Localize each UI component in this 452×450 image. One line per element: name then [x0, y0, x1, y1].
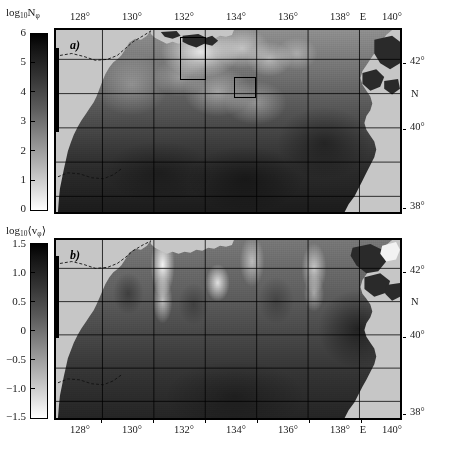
- graticule-a: [56, 30, 400, 212]
- latitude-tickmark-a-38: [403, 208, 406, 209]
- colorbar-b-tickmark-1p0: [31, 272, 35, 273]
- longitude-label-bottom-128: 128°: [50, 424, 110, 435]
- colorbar-a-tick-0: 0: [0, 202, 26, 214]
- longitude-label-top-130: 130°: [102, 11, 162, 22]
- colorbar-b: [30, 243, 48, 419]
- longitude-label-top-132: 132°: [154, 11, 214, 22]
- longitude-tickmark-136: [309, 420, 310, 423]
- annotation-box-a-2: [234, 77, 256, 98]
- map-panel-a: a): [54, 28, 402, 214]
- colorbar-b-tickmark-n0p5: [31, 359, 35, 360]
- latitude-label-b-38: 38°: [410, 406, 425, 417]
- figure-root: log10Nφ 6 5 4 3 2 1 0 128° 130° 132° 134…: [0, 0, 452, 450]
- colorbar-a-tick-3: 3: [0, 114, 26, 126]
- longitude-tickmark-138: [361, 420, 362, 423]
- latitude-label-a-40: 40°: [410, 121, 425, 132]
- panel-label-b: b): [70, 248, 80, 263]
- map-panel-b-inner: [56, 240, 400, 418]
- colorbar-a-tick-1: 1: [0, 173, 26, 185]
- colorbar-a-tickmark-3: [31, 121, 35, 122]
- colorbar-a-tickmark-2: [31, 150, 35, 151]
- latitude-label-b-40: 40°: [410, 329, 425, 340]
- colorbar-b-tick-n1p5: −1.5: [0, 410, 26, 422]
- longitude-label-bottom-134: 134°: [206, 424, 266, 435]
- edge-marker-bar-b: [56, 256, 59, 338]
- colorbar-title-b: log10⟨vφ⟩: [6, 224, 46, 238]
- latitude-tickmark-a-42: [403, 63, 406, 64]
- edge-marker-bar-a: [56, 48, 59, 132]
- latitude-label-a-hemisphere: N: [411, 88, 419, 99]
- latitude-label-a-42: 42°: [410, 55, 425, 66]
- longitude-tickmark-134: [257, 420, 258, 423]
- map-panel-b: b): [54, 238, 402, 420]
- colorbar-b-tick-n0p5: −0.5: [0, 353, 26, 365]
- longitude-label-bottom-130: 130°: [102, 424, 162, 435]
- colorbar-a-gradient: [31, 34, 47, 210]
- longitude-label-bottom-132: 132°: [154, 424, 214, 435]
- latitude-tickmark-b-40: [403, 337, 406, 338]
- longitude-label-bottom-140: 140°: [362, 424, 422, 435]
- latitude-tickmark-b-42: [403, 272, 406, 273]
- colorbar-b-tick-n1p0: −1.0: [0, 382, 26, 394]
- colorbar-a-tick-2: 2: [0, 144, 26, 156]
- longitude-label-top-128: 128°: [50, 11, 110, 22]
- colorbar-a-tick-4: 4: [0, 85, 26, 97]
- colorbar-b-tick-0p5: 0.5: [0, 295, 26, 307]
- latitude-label-b-hemisphere: N: [411, 296, 419, 307]
- colorbar-b-tick-1p0: 1.0: [0, 266, 26, 278]
- latitude-tickmark-b-38: [403, 414, 406, 415]
- colorbar-a-tickmark-5: [31, 62, 35, 63]
- colorbar-b-tick-0: 0: [0, 324, 26, 336]
- colorbar-b-gradient: [31, 244, 47, 418]
- colorbar-title-b-text: log10⟨vφ⟩: [6, 224, 46, 236]
- colorbar-b-tickmark-0p5: [31, 301, 35, 302]
- colorbar-b-tickmark-n1p0: [31, 388, 35, 389]
- annotation-box-a-1: [180, 37, 206, 80]
- longitude-label-top-140: 140°: [362, 11, 422, 22]
- colorbar-a: [30, 33, 48, 211]
- longitude-label-bottom-136: 136°: [258, 424, 318, 435]
- longitude-tickmark-128: [101, 420, 102, 423]
- latitude-tickmark-a-40: [403, 129, 406, 130]
- latitude-label-b-42: 42°: [410, 264, 425, 275]
- colorbar-title-a: log10Nφ: [6, 6, 40, 20]
- longitude-label-top-134: 134°: [206, 11, 266, 22]
- map-panel-a-inner: [56, 30, 400, 212]
- colorbar-a-tickmark-4: [31, 91, 35, 92]
- panel-label-a: a): [70, 38, 80, 53]
- colorbar-a-tickmark-1: [31, 180, 35, 181]
- colorbar-b-tick-1p5: 1.5: [0, 237, 26, 249]
- colorbar-title-a-text: log10Nφ: [6, 6, 40, 18]
- graticule-b: [56, 240, 400, 418]
- longitude-tickmark-132: [205, 420, 206, 423]
- latitude-label-a-38: 38°: [410, 200, 425, 211]
- colorbar-b-tickmark-0: [31, 330, 35, 331]
- colorbar-a-tick-5: 5: [0, 55, 26, 67]
- longitude-label-top-136: 136°: [258, 11, 318, 22]
- colorbar-a-tick-6: 6: [0, 26, 26, 38]
- longitude-tickmark-130: [153, 420, 154, 423]
